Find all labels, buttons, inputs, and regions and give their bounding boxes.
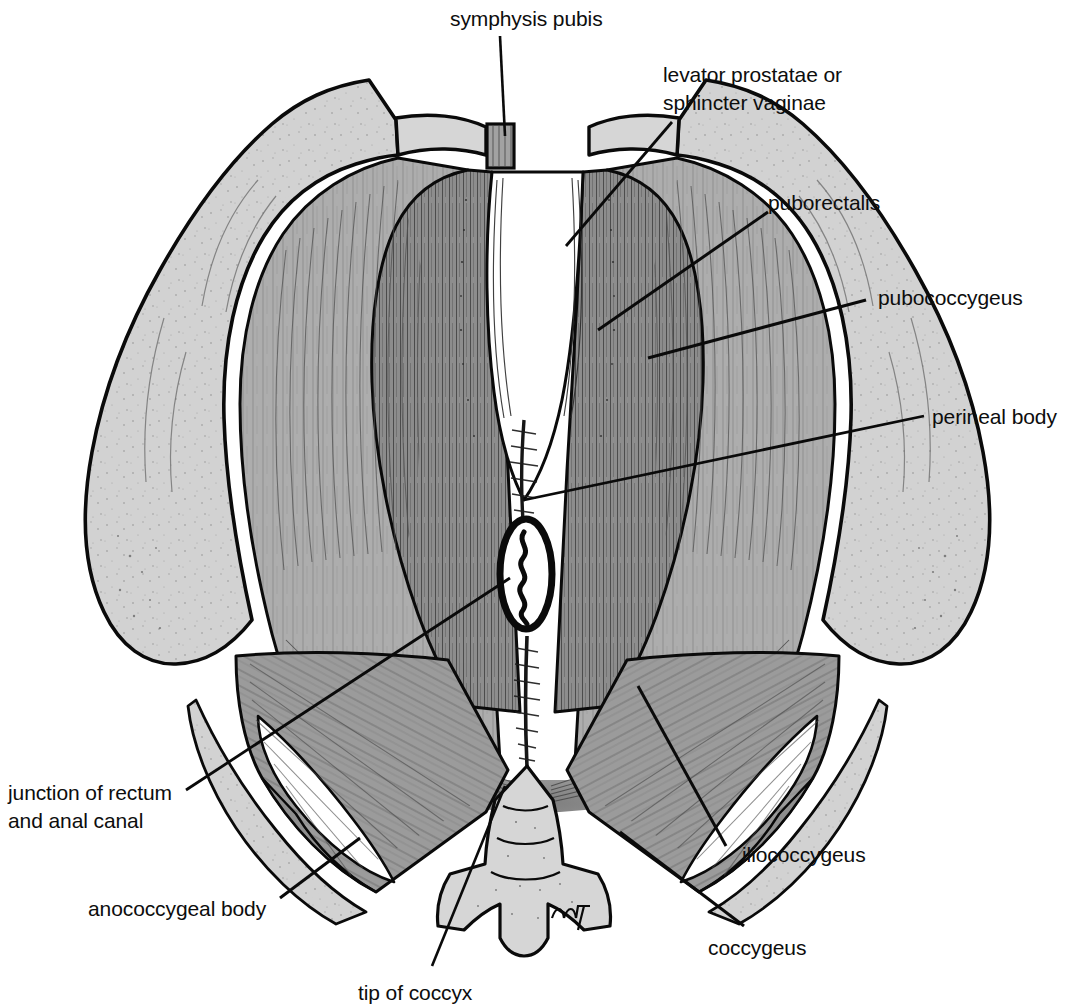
label-symphysis-pubis: symphysis pubis [450,7,603,30]
left-pubic-body [396,115,486,155]
right-pubic-body [589,115,679,155]
label-perineal-body: perineal body [932,405,1057,428]
label-puborectalis: puborectalis [768,191,880,214]
label-anococcygeal-body: anococcygeal body [88,897,267,920]
label-iliococcygeus: iliococcygeus [742,843,866,866]
label-levator-prostatae-line1: levator prostatae or [663,63,842,86]
label-pubococcygeus: pubococcygeus [878,286,1023,309]
label-junction-rectum-line1: junction of rectum [7,781,172,804]
label-coccygeus: coccygeus [708,936,806,959]
anal-canal-opening [500,519,552,629]
anatomy-illustration: symphysis pubis levator prostatae or sph… [0,0,1075,1007]
label-junction-rectum-line2: and anal canal [8,809,143,832]
label-levator-prostatae-line2: sphincter vaginae [663,91,826,114]
anatomy-figure: symphysis pubis levator prostatae or sph… [0,0,1075,1007]
symphysis-pubis-structure [487,124,514,168]
label-tip-of-coccyx: tip of coccyx [358,981,473,1004]
